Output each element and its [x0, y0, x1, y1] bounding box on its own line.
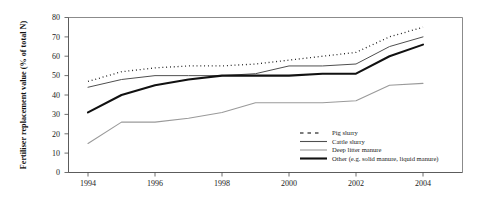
- legend-label-cattle-slurry: Cattle slurry: [332, 138, 365, 145]
- legend-label-pig-slurry: Pig slurry: [332, 129, 359, 136]
- y-tick-label-50: 50: [52, 71, 60, 80]
- legend-item-pig-slurry: Pig slurry: [300, 129, 359, 136]
- data-series-layer: [88, 27, 423, 143]
- chart-figure: 0 10 20 30 40 50 60 70 80 Fertiliser rep…: [0, 0, 484, 200]
- legend-item-other: Other (e.g. solid manure, liquid manure): [300, 155, 439, 163]
- y-tick-label-60: 60: [52, 52, 60, 61]
- x-tick-label-1994: 1994: [80, 179, 96, 188]
- y-tick-label-40: 40: [52, 91, 60, 100]
- x-tick-label-2002: 2002: [348, 179, 364, 188]
- y-tick-label-70: 70: [52, 33, 60, 42]
- legend-label-other: Other (e.g. solid manure, liquid manure): [332, 155, 439, 163]
- y-tick-label-20: 20: [52, 130, 60, 139]
- x-tick-label-1998: 1998: [214, 179, 230, 188]
- y-tick-label-30: 30: [52, 110, 60, 119]
- y-tick-label-80: 80: [52, 13, 60, 22]
- legend-item-deep-litter-manure: Deep litter manure: [300, 146, 382, 153]
- chart-legend: Pig slurry Cattle slurry Deep litter man…: [300, 129, 439, 163]
- x-tick-label-2004: 2004: [415, 179, 431, 188]
- y-axis-title: Fertiliser replacement value (% of total…: [19, 21, 28, 170]
- legend-item-cattle-slurry: Cattle slurry: [300, 138, 365, 145]
- x-axis: 1994 1996 1998 2000 2002 2004: [80, 173, 431, 189]
- x-tick-label-1996: 1996: [147, 179, 163, 188]
- plot-frame: [69, 18, 463, 173]
- x-tick-label-2000: 2000: [281, 179, 297, 188]
- y-axis: 0 10 20 30 40 50 60 70 80: [52, 13, 69, 177]
- series-line-deep-litter-manure: [88, 83, 423, 143]
- y-tick-label-0: 0: [56, 168, 60, 177]
- line-chart: 0 10 20 30 40 50 60 70 80 Fertiliser rep…: [0, 0, 484, 200]
- y-tick-label-10: 10: [52, 149, 60, 158]
- legend-label-deep-litter-manure: Deep litter manure: [332, 146, 382, 153]
